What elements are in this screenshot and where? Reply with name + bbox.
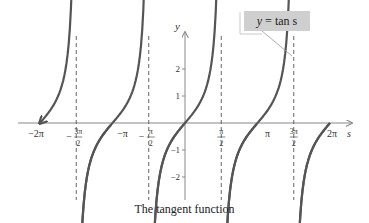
function-legend: y = tan s [244,11,310,31]
svg-text:π: π [149,127,153,136]
svg-text:−: − [66,131,72,142]
svg-text:2: 2 [219,139,223,148]
x-tick-label: −π2 [139,127,155,148]
legend-expression: = tan s [265,14,297,29]
svg-text:2: 2 [292,139,296,148]
tan-branch [79,0,145,223]
x-tick-label: −2π [28,128,44,139]
y-tick-label: 2 [176,64,181,74]
svg-text:3π: 3π [74,127,82,136]
x-tick-label: −3π2 [66,127,82,148]
y-tick-label: −2 [170,172,180,182]
chart-caption: The tangent function [0,202,369,217]
svg-text:3π: 3π [290,127,298,136]
svg-text:2: 2 [76,139,80,148]
x-tick-label: 2π [327,128,337,139]
x-tick-label: π [265,128,270,139]
tangent-chart: sy −2π−3π2−π−π2π2π3π22π−2−112 [0,0,369,223]
svg-text:π: π [219,127,223,136]
svg-text:2: 2 [149,139,153,148]
tan-branch [225,0,291,223]
x-axis-label: s [347,128,351,139]
y-tick-label: 1 [176,91,181,101]
x-tick-label: −π [117,128,128,139]
svg-text:−: − [139,131,145,142]
tan-branch [40,0,73,123]
legend-variable: y [257,14,262,29]
y-tick-label: −1 [170,145,180,155]
y-axis-label: y [174,20,180,32]
